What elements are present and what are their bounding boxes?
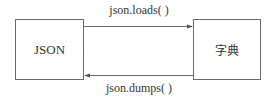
json-node: JSON — [15, 19, 84, 80]
json-node-label: JSON — [34, 42, 65, 58]
dumps-label: json.dumps( ) — [106, 81, 172, 96]
loads-label: json.loads( ) — [109, 3, 168, 18]
dict-node: 字典 — [193, 19, 261, 80]
dict-node-label: 字典 — [215, 41, 239, 58]
